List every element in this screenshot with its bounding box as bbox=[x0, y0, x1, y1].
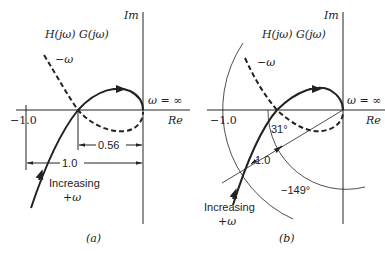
caption-b: (b) bbox=[279, 232, 295, 245]
function-label: H(jω) G(jω) bbox=[261, 28, 326, 41]
re-label: Re bbox=[365, 114, 381, 127]
neg-omega-label: −ω bbox=[257, 56, 275, 69]
panel-b: Im Re H(jω) G(jω) −ω ω = ∞ −1.0 31° 1.0 … bbox=[204, 9, 385, 245]
caption-a: (a) bbox=[86, 232, 101, 245]
negative-omega-curve bbox=[44, 55, 143, 131]
plus-omega-label: +ω bbox=[218, 215, 236, 228]
unit-radius-label: 1.0 bbox=[255, 154, 270, 166]
omega-inf-label: ω = ∞ bbox=[347, 94, 381, 107]
function-label: H(jω) G(jω) bbox=[44, 28, 109, 41]
minus-one-label: −1.0 bbox=[10, 114, 37, 127]
positive-omega-curve bbox=[31, 89, 143, 208]
omega-inf-label: ω = ∞ bbox=[148, 94, 182, 107]
phase-margin-label: 31° bbox=[271, 123, 288, 135]
phase-angle-arc bbox=[268, 110, 365, 189]
unit-dim-label: 1.0 bbox=[62, 157, 77, 169]
im-label: Im bbox=[123, 9, 139, 22]
im-label: Im bbox=[323, 9, 339, 22]
minus-one-label: −1.0 bbox=[210, 114, 237, 127]
re-label: Re bbox=[167, 114, 183, 127]
panel-a: 0.56 1.0 Im Re H(jω) G(jω) −ω ω = ∞ −1.0… bbox=[10, 9, 190, 245]
neg-omega-label: −ω bbox=[55, 53, 73, 66]
nyquist-diagrams: 0.56 1.0 Im Re H(jω) G(jω) −ω ω = ∞ −1.0… bbox=[0, 0, 385, 253]
gain-crossing-dim-label: 0.56 bbox=[98, 139, 119, 151]
increasing-label: Increasing bbox=[204, 201, 255, 213]
phase-angle-label: −149° bbox=[281, 184, 310, 196]
plus-omega-label: +ω bbox=[63, 191, 81, 204]
increasing-label: Increasing bbox=[49, 177, 100, 189]
unit-radius-line bbox=[222, 110, 343, 183]
